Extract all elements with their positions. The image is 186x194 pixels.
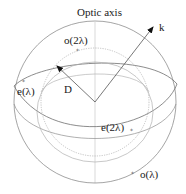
d-vector (57, 66, 95, 102)
label-d: D (64, 83, 72, 95)
marker-o-lambda: * (131, 170, 134, 177)
marker-o-2lambda: * (76, 47, 79, 54)
label-o-2lambda: o(2λ) (64, 34, 88, 47)
label-e-lambda: e(λ) (17, 85, 35, 98)
label-optic-axis: Optic axis (77, 6, 122, 18)
label-e-2lambda: e(2λ) (101, 121, 124, 134)
index-surface-diagram: * * * * Optic axis k D o(2λ) e(λ) e(2λ) … (0, 0, 186, 194)
label-k: k (159, 21, 165, 33)
marker-e-lambda: * (22, 78, 25, 85)
marker-e-2lambda: * (130, 127, 133, 134)
label-o-lambda: o(λ) (140, 168, 158, 181)
k-vector (95, 27, 153, 102)
